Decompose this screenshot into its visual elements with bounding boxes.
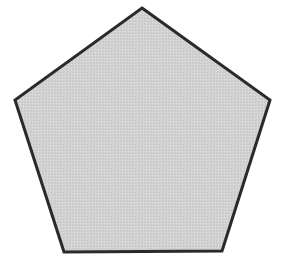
pentagon-shape [15, 8, 270, 252]
pentagon-diagram [0, 0, 281, 269]
diagram-canvas [0, 0, 281, 269]
